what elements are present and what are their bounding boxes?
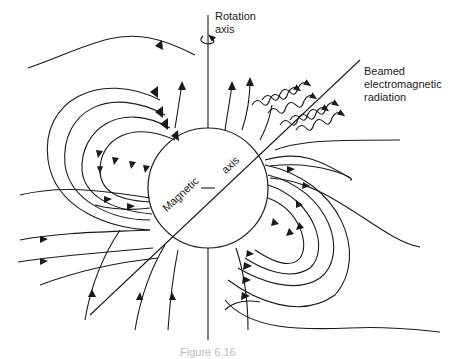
beam-label-line2: electromagnetic <box>364 78 442 91</box>
figure-caption: Figure 6.16 <box>180 346 236 359</box>
beam-label-line1: Beamed <box>364 65 442 78</box>
magnetic-axis-line <box>90 60 360 315</box>
beam-label-line3: radiation <box>364 91 442 104</box>
field-lines-bottom <box>85 230 260 330</box>
rotation-axis-label: Rotation axis <box>215 10 256 36</box>
rotation-arrow-icon <box>201 36 214 44</box>
rotation-label-line2: axis <box>215 23 256 36</box>
beamed-radiation-label: Beamed electromagnetic radiation <box>364 65 442 104</box>
rotation-label-line1: Rotation <box>215 10 256 23</box>
